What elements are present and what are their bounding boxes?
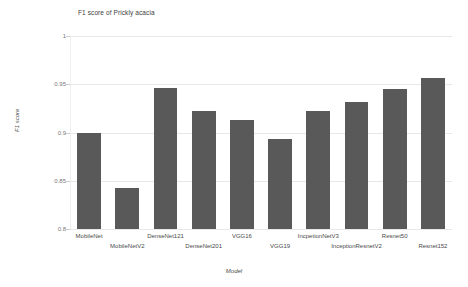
gridline [70,84,452,85]
bar [306,111,330,229]
x-axis-label: Model [0,268,468,274]
x-tick-label: DenseNet201 [185,243,222,249]
y-axis-label: F1 score [14,109,20,132]
y-tick-mark [66,84,70,85]
x-tick-label: Resnet152 [418,243,447,249]
x-tick-label: MobileNetV2 [110,243,144,249]
gridline [70,36,452,37]
chart-title: F1 score of Prickly acacia [78,9,155,16]
gridline [70,229,452,230]
bar [230,120,254,229]
x-tick-label: DenseNet121 [147,233,184,239]
x-tick-label: VGG16 [232,233,252,239]
x-tick-label: IncpetionNetV3 [298,233,339,239]
y-tick-mark [66,181,70,182]
plot-area [70,36,452,229]
bar [115,188,139,229]
y-tick-mark [66,36,70,37]
bar [154,88,178,229]
y-tick-label: 0.9 [58,130,66,136]
bar [192,111,216,229]
bar [383,89,407,229]
x-tick-label: Resnet50 [382,233,408,239]
y-tick-mark [66,133,70,134]
y-tick-label: 0.8 [58,226,66,232]
bar [345,102,369,229]
y-tick-mark [66,229,70,230]
bar [268,139,292,229]
bar [77,133,101,230]
x-tick-label: VGG19 [270,243,290,249]
x-tick-label: MobileNet [76,233,103,239]
x-tick-label: InceptionResnetV2 [331,243,382,249]
y-tick-label: 0.95 [54,81,66,87]
chart-container: F1 score of Prickly acacia F1 score 0.80… [0,0,468,287]
bar [421,78,445,230]
y-tick-label: 0.85 [54,178,66,184]
